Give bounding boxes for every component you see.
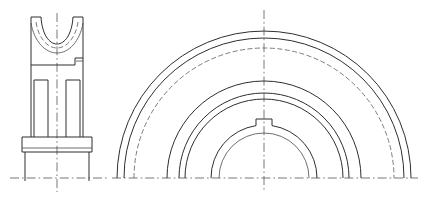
plan-bore-outer-arc-left	[211, 126, 256, 178]
front-left-slot	[34, 80, 48, 137]
center-lines-group	[10, 10, 418, 192]
front-right-slot	[66, 80, 80, 137]
front-right-step	[75, 58, 83, 65]
plan-bore-outer-arc-right	[272, 126, 317, 178]
technical-drawing-canvas: Engineering orthographic drawing - brack…	[0, 0, 422, 197]
drawing-svg	[0, 0, 422, 197]
plan-outer-arc-2	[124, 38, 404, 178]
